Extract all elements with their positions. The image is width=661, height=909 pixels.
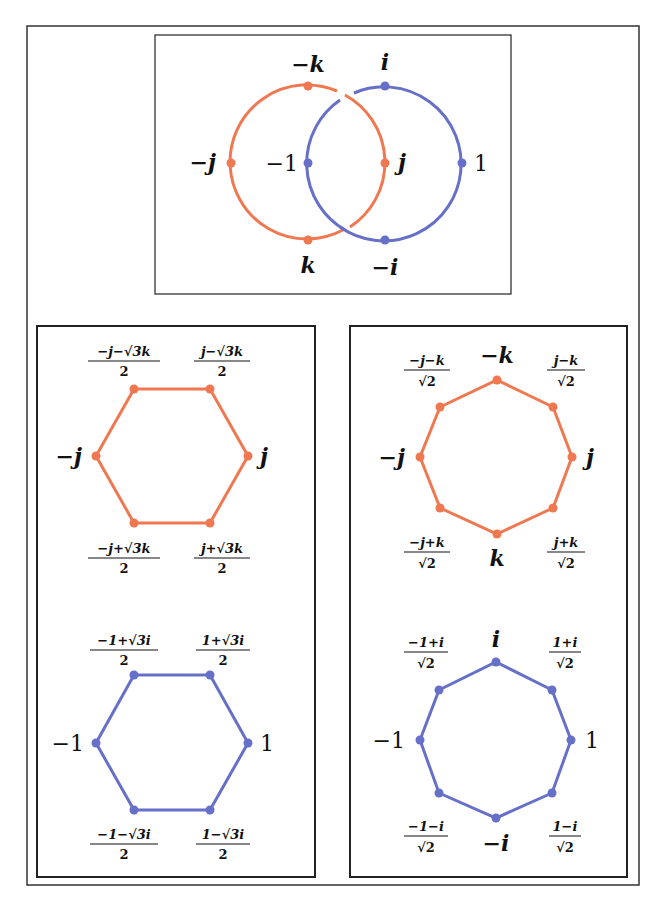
svg-text:√2: √2 [557, 374, 575, 389]
label-i: i [381, 49, 389, 75]
right-panel [350, 326, 627, 877]
svg-text:j−√3k: j−√3k [198, 344, 243, 359]
svg-text:−1−i: −1−i [408, 819, 444, 834]
label-neg-k: −k [291, 51, 325, 77]
svg-text:−j+√3k: −j+√3k [97, 541, 150, 556]
svg-text:−j−k: −j−k [409, 353, 445, 368]
oct-orange-bottom-right: j+k √2 [547, 535, 585, 571]
hex-blue-right: 1 [260, 731, 274, 756]
oct-blue-right: 1 [585, 728, 599, 753]
label-k: k [300, 252, 315, 278]
oct-blue-bottom-right: 1−i √2 [549, 819, 581, 855]
oct-orange-left: −j [379, 444, 405, 470]
svg-text:2: 2 [119, 847, 128, 862]
svg-text:2: 2 [119, 364, 128, 379]
oct-blue-top-right: 1+i √2 [549, 635, 581, 671]
label-neg-i: −i [372, 254, 399, 280]
quaternion-diagram: −k −j j k i −1 1 −i −j j −j−√3k 2 j−√3k … [0, 0, 661, 909]
oct-orange-bottom: k [489, 545, 504, 571]
blue-hexagon-points [92, 671, 253, 815]
oct-orange-bottom-left: −j+k √2 [404, 535, 450, 571]
svg-text:−1+i: −1+i [408, 635, 444, 650]
svg-text:j−k: j−k [551, 353, 579, 368]
hex-blue-top-right: 1+√3i 2 [196, 633, 250, 668]
hex-orange-bottom-left: −j+√3k 2 [88, 541, 160, 576]
hex-blue-left: −1 [52, 731, 84, 756]
hex-orange-top-left: −j−√3k 2 [88, 344, 160, 379]
orange-hexagon-points [92, 385, 253, 528]
orange-hexagon [96, 389, 248, 523]
svg-text:−1+√3i: −1+√3i [97, 633, 150, 648]
oct-orange-top: −k [480, 342, 514, 368]
svg-text:2: 2 [218, 847, 227, 862]
oct-blue-top-left: −1+i √2 [404, 635, 448, 671]
svg-text:√2: √2 [417, 840, 435, 855]
svg-text:−j+k: −j+k [409, 535, 445, 550]
hex-orange-left: −j [56, 443, 82, 469]
svg-text:1+i: 1+i [553, 635, 578, 650]
svg-text:√2: √2 [418, 374, 436, 389]
hex-blue-bottom-left: −1−√3i 2 [90, 827, 158, 862]
hex-orange-right: j [256, 443, 268, 469]
svg-text:2: 2 [119, 653, 128, 668]
svg-text:j+√3k: j+√3k [198, 541, 243, 556]
blue-octagon-points [416, 658, 576, 823]
oct-orange-top-left: −j−k √2 [404, 353, 450, 389]
label-1: 1 [474, 151, 488, 176]
oct-orange-top-right: j−k √2 [547, 353, 585, 389]
label-neg-1: −1 [266, 151, 298, 176]
oct-blue-top: i [492, 626, 500, 652]
svg-text:−1−√3i: −1−√3i [97, 827, 150, 842]
oct-orange-right: j [582, 444, 594, 470]
left-panel [37, 326, 315, 877]
outer-frame [27, 26, 639, 885]
svg-text:1−√3i: 1−√3i [202, 827, 245, 842]
svg-text:2: 2 [217, 561, 226, 576]
svg-text:2: 2 [119, 561, 128, 576]
hex-orange-top-right: j−√3k 2 [194, 344, 250, 379]
oct-blue-bottom: −i [483, 830, 510, 856]
label-j: j [394, 149, 406, 175]
oct-blue-bottom-left: −1−i √2 [404, 819, 448, 855]
oct-blue-left: −1 [373, 728, 405, 753]
svg-text:√2: √2 [556, 656, 574, 671]
svg-text:1−i: 1−i [553, 819, 578, 834]
svg-text:√2: √2 [557, 556, 575, 571]
hex-blue-top-left: −1+√3i 2 [90, 633, 158, 668]
svg-text:−j−√3k: −j−√3k [97, 344, 150, 359]
orange-octagon-points [416, 376, 577, 539]
svg-text:1+√3i: 1+√3i [202, 633, 245, 648]
hex-blue-bottom-right: 1−√3i 2 [196, 827, 250, 862]
svg-text:√2: √2 [418, 556, 436, 571]
svg-text:√2: √2 [417, 656, 435, 671]
hex-orange-bottom-right: j+√3k 2 [194, 541, 250, 576]
blue-hexagon [96, 675, 248, 810]
label-neg-j: −j [190, 149, 216, 175]
svg-text:j+k: j+k [551, 535, 579, 550]
svg-text:√2: √2 [556, 840, 574, 855]
svg-text:2: 2 [217, 364, 226, 379]
svg-text:2: 2 [218, 653, 227, 668]
